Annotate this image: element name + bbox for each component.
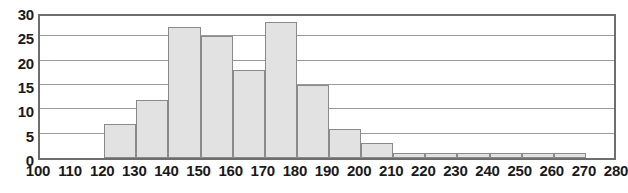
x-axis-tick-label: 160 (218, 162, 242, 180)
histogram-bar (168, 27, 200, 158)
y-axis-tick-label: 20 (0, 55, 34, 70)
histogram-bar (522, 153, 554, 158)
histogram-bar (425, 153, 457, 158)
y-axis-tick-label: 30 (0, 7, 34, 22)
x-axis-tick-label: 250 (507, 162, 531, 180)
histogram-bar (104, 124, 136, 158)
y-axis-tick-label: 15 (0, 80, 34, 95)
histogram-bar (361, 143, 393, 158)
histogram-bar (393, 153, 425, 158)
histogram-bar (297, 85, 329, 158)
x-axis-tick-label: 100 (26, 162, 50, 180)
x-axis-tick-label: 270 (572, 162, 596, 180)
x-axis-tick-label: 230 (443, 162, 467, 180)
x-axis-tick-label: 280 (604, 162, 628, 180)
y-axis-tick-label: 5 (0, 128, 34, 143)
x-axis-tick-label: 120 (90, 162, 114, 180)
x-axis-tick-label: 140 (154, 162, 178, 180)
histogram-bar (490, 153, 522, 158)
x-axis-tick-label: 190 (315, 162, 339, 180)
histogram-bar (457, 153, 489, 158)
histogram-bar (233, 70, 265, 158)
x-axis-tick-label: 210 (379, 162, 403, 180)
bars-layer (40, 16, 614, 158)
x-axis-tick-label: 150 (186, 162, 210, 180)
histogram-bar (201, 36, 233, 158)
x-axis-tick-label: 170 (251, 162, 275, 180)
x-axis-tick-label: 220 (411, 162, 435, 180)
y-axis-tick-label: 25 (0, 31, 34, 46)
y-axis-tick-label: 10 (0, 104, 34, 119)
histogram-bar (554, 153, 586, 158)
plot-area (38, 14, 616, 160)
histogram-bar (265, 22, 297, 158)
histogram-bar (329, 129, 361, 158)
x-axis-tick-label: 180 (283, 162, 307, 180)
y-axis-tick-labels: 051015202530 (0, 0, 34, 160)
x-axis-tick-label: 110 (58, 162, 82, 180)
histogram-bar (136, 100, 168, 158)
x-axis-tick-label: 240 (475, 162, 499, 180)
x-axis-tick-label: 200 (347, 162, 371, 180)
x-axis-tick-labels: 1001101201301401501601701801902002102202… (0, 162, 623, 190)
x-axis-tick-label: 260 (540, 162, 564, 180)
x-axis-tick-label: 130 (122, 162, 146, 180)
